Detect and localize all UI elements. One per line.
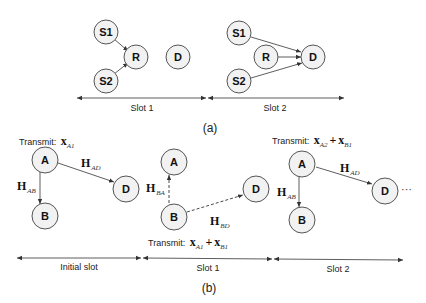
edge-label-had: HAD <box>340 161 360 177</box>
svg-text:B: B <box>298 214 306 226</box>
panel-a-timeline: Slot 1 Slot 2 <box>77 98 344 113</box>
panel-b-slot1: HBA HBD A B D Transmit: xA1+xB1 <box>146 149 269 251</box>
edge-s1-r <box>114 39 128 51</box>
svg-text:D: D <box>122 183 130 195</box>
svg-text:B: B <box>170 211 178 223</box>
transmit-label: Transmit: xA2+xB1 <box>272 133 352 149</box>
node-d: D <box>166 45 190 69</box>
svg-text:D: D <box>252 183 260 195</box>
transmit-label: Transmit: xA1+xB1 <box>148 235 228 251</box>
svg-text:S2: S2 <box>232 75 245 87</box>
node-b: B <box>32 203 58 229</box>
node-s2: S2 <box>94 69 118 93</box>
node-d: D <box>301 45 325 69</box>
slot2-label: Slot 2 <box>263 103 286 113</box>
edge-label-hab: HAB <box>277 185 297 201</box>
svg-text:S1: S1 <box>232 27 245 39</box>
svg-text:R: R <box>262 51 270 63</box>
edge-b-d <box>187 195 243 212</box>
edge-label-hab: HAB <box>17 179 37 195</box>
node-a: A <box>161 149 187 175</box>
edge-label-hba: HBA <box>146 181 166 197</box>
slot2-span <box>274 259 403 260</box>
node-d: D <box>113 176 139 202</box>
panel-b-slot2: Transmit: xA2+xB1 HAB HAD A B D <box>272 133 412 233</box>
node-s1: S1 <box>227 21 251 45</box>
panel-a-slot1: S1 S2 R D <box>94 20 190 93</box>
edge-s2-r <box>114 63 128 74</box>
panel-b-initial-slot: Transmit: xA1 HAB HAD A B D <box>17 134 139 229</box>
panel-a-slot2: S1 R S2 D <box>227 21 325 93</box>
node-s1: S1 <box>94 20 118 44</box>
node-s2: S2 <box>227 69 251 93</box>
node-r: R <box>124 45 148 69</box>
svg-text:S2: S2 <box>99 75 112 87</box>
slot2-label: Slot 2 <box>326 264 349 274</box>
panel-b-timeline: Initial slot Slot 1 Slot 2 <box>17 258 403 274</box>
edge-label-hbd: HBD <box>210 214 230 230</box>
node-b: B <box>289 207 315 233</box>
caption-b: (b) <box>202 281 217 295</box>
caption-a: (a) <box>203 121 218 135</box>
edge-label-had: HAD <box>81 156 101 172</box>
ellipsis: ··· <box>401 183 412 195</box>
node-d: D <box>372 178 398 204</box>
svg-text:D: D <box>309 51 317 63</box>
initial-slot-label: Initial slot <box>60 262 98 272</box>
slot1-label: Slot 1 <box>196 263 219 273</box>
panel-b: Transmit: xA1 HAB HAD A B D <box>17 133 412 295</box>
node-r: R <box>254 45 278 69</box>
slot1-label: Slot 1 <box>130 103 153 113</box>
svg-text:D: D <box>381 185 389 197</box>
svg-text:B: B <box>41 210 49 222</box>
svg-text:A: A <box>170 156 178 168</box>
svg-text:R: R <box>132 51 140 63</box>
node-d: D <box>243 176 269 202</box>
svg-text:S1: S1 <box>99 26 112 38</box>
node-a: A <box>289 151 315 177</box>
svg-text:D: D <box>174 51 182 63</box>
diagram-canvas: S1 S2 R D S1 <box>0 0 426 303</box>
svg-text:A: A <box>41 154 49 166</box>
svg-text:A: A <box>298 158 306 170</box>
panel-a: S1 S2 R D S1 <box>77 20 344 135</box>
node-a: A <box>32 147 58 173</box>
node-b: B <box>161 204 187 230</box>
slot1-span <box>143 258 272 259</box>
